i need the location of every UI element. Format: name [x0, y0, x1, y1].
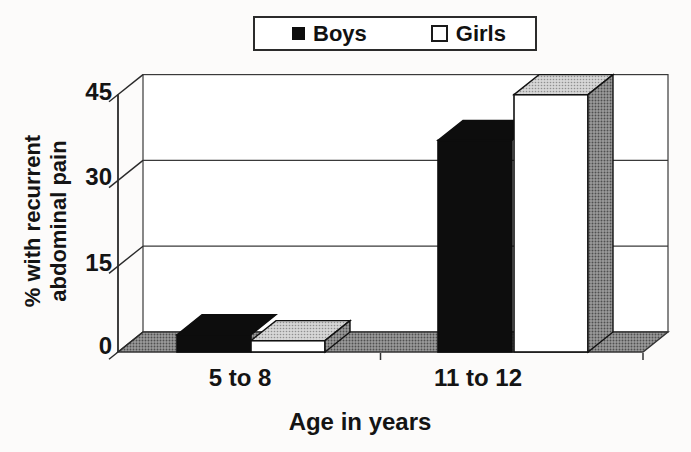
girls-swatch-icon	[431, 25, 448, 42]
legend-item-girls: Girls	[431, 21, 506, 47]
legend-item-boys: Boys	[292, 21, 367, 47]
y-axis-title-line1: % with recurrent	[20, 90, 46, 352]
legend-label-boys: Boys	[313, 21, 367, 47]
chart-canvas	[0, 0, 691, 452]
y-axis-title: % with recurrent abdominal pain	[20, 90, 78, 352]
boys-swatch-icon	[292, 27, 305, 40]
y-tick-mark-30	[109, 160, 143, 187]
x-category-11to12: 11 to 12	[393, 365, 563, 391]
y-tick-mark-45	[109, 75, 143, 102]
legend-label-girls: Girls	[456, 21, 506, 47]
x-axis-title: Age in years	[240, 408, 480, 436]
chart-figure: Boys Girls 45 30 15 0 5 to 8 11 to 12 Ag…	[0, 0, 691, 452]
girls-bar-11to12	[514, 75, 613, 352]
y-tick-mark-15	[109, 246, 143, 273]
legend-box: Boys Girls	[253, 16, 537, 51]
x-category-5to8: 5 to 8	[155, 365, 325, 391]
y-axis-title-line2: abdominal pain	[46, 90, 72, 352]
